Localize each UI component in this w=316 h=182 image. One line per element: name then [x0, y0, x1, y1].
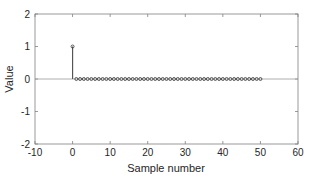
plot-area: -100102030405060-2-1012	[21, 9, 304, 159]
x-tick-label: 20	[142, 147, 154, 158]
x-tick-label: -10	[28, 147, 43, 158]
y-tick-label: -1	[21, 106, 30, 117]
y-tick-label: 0	[24, 74, 30, 85]
x-tick-label: 40	[217, 147, 229, 158]
x-tick-label: 10	[105, 147, 117, 158]
x-tick-label: 50	[255, 147, 267, 158]
x-tick-label: 60	[292, 147, 304, 158]
y-axis-label: Value	[3, 65, 15, 92]
stem-chart: -100102030405060-2-1012 Sample number Va…	[0, 0, 316, 182]
x-axis-label: Sample number	[127, 162, 205, 174]
x-tick-label: 0	[70, 147, 76, 158]
y-tick-label: 2	[24, 9, 30, 20]
y-tick-label: -2	[21, 139, 30, 150]
y-tick-label: 1	[24, 41, 30, 52]
x-tick-label: 30	[180, 147, 192, 158]
